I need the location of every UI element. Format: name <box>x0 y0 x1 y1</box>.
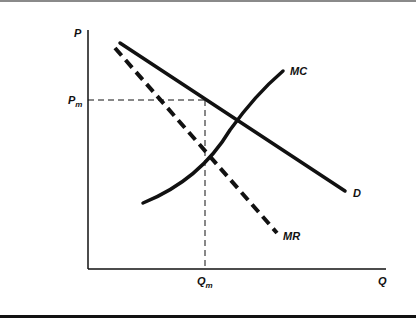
monopoly-diagram: P Q Pm Qm D MR MC <box>0 0 416 328</box>
pm-label-sub: m <box>75 100 82 109</box>
marginal-cost-label: MC <box>290 65 308 77</box>
pm-label: Pm <box>68 94 82 109</box>
marginal-revenue-label: MR <box>283 230 300 242</box>
qm-label-sub: m <box>206 281 213 290</box>
demand-label: D <box>353 187 361 199</box>
x-axis-label: Q <box>378 275 387 287</box>
y-axis-label: P <box>74 27 82 39</box>
marginal-revenue-curve <box>115 48 277 233</box>
demand-curve <box>120 43 345 191</box>
qm-label: Qm <box>197 275 213 290</box>
bottom-border <box>0 315 416 318</box>
